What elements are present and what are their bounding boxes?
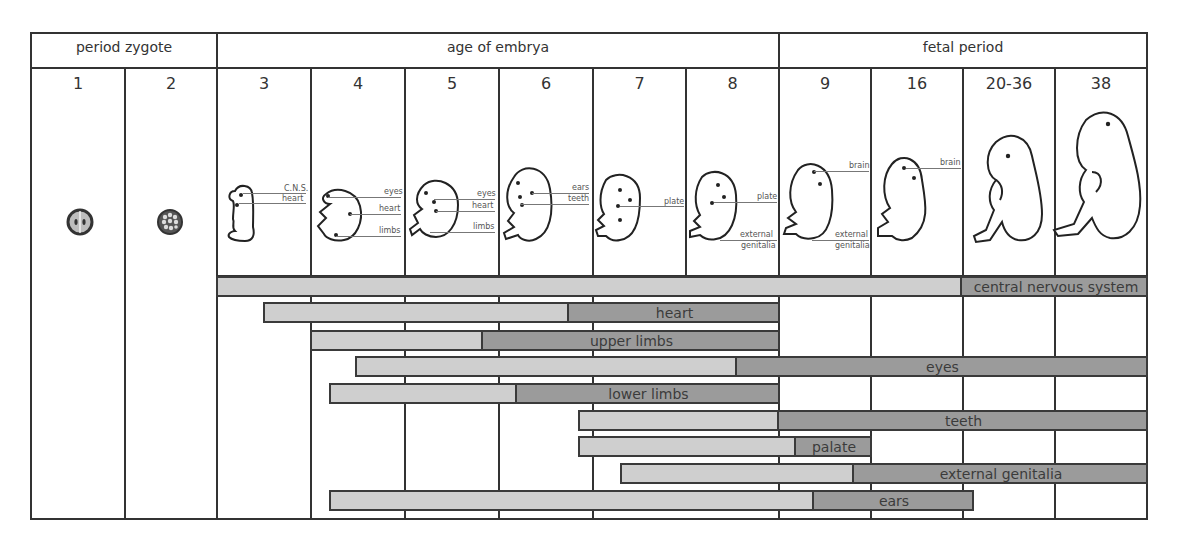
leader-line (239, 203, 306, 204)
week-label: 2 (126, 74, 216, 93)
fetus-week20-36-icon (966, 130, 1048, 248)
header-age-of-embryo: age of embrya (218, 39, 778, 55)
grid-line (962, 296, 964, 518)
annotation-eyes: eyes (384, 187, 403, 196)
leader-line (814, 171, 869, 172)
bar-label: ears (815, 492, 973, 509)
bar-label: central nervous system (964, 278, 1148, 295)
bar-upper-limbs: upper limbs (310, 330, 780, 351)
leader-line (434, 199, 495, 200)
annotation-limbs: limbs (379, 226, 400, 235)
embryo-week5-icon (408, 175, 462, 245)
annotation-plate: plate (757, 192, 777, 201)
leader-line (436, 211, 495, 212)
week-label: 20-36 (964, 74, 1054, 93)
annotation-ears: ears (572, 183, 589, 192)
bar-external-genitalia: external genitalia (620, 463, 1148, 484)
leader-line (620, 206, 684, 207)
group-sep-2 (778, 32, 780, 277)
bar-label: eyes (738, 358, 1147, 375)
fetus-week38-icon (1052, 106, 1144, 246)
header-divider-line (30, 67, 1148, 69)
leader-line (714, 202, 777, 203)
annotation-genitalia: genitalia (835, 241, 870, 250)
bar-label: upper limbs (484, 332, 779, 349)
annotation-heart: heart (379, 204, 400, 213)
annotation-heart: heart (472, 201, 493, 210)
bar-lower-limbs: lower limbs (329, 383, 780, 404)
fetus-week16-icon (874, 152, 930, 244)
annotation-eyes: eyes (477, 189, 496, 198)
week-label: 6 (500, 74, 592, 93)
bar-central-nervous-system: central nervous system (216, 276, 1148, 297)
week-label: 1 (32, 74, 124, 93)
annotation-external: external (835, 230, 868, 239)
bar-ears: ears (329, 490, 974, 511)
header-period-zygote: period zygote (32, 39, 216, 55)
bar-heart: heart (263, 302, 780, 323)
annotation-brain: brain (849, 161, 870, 170)
annotation-genitalia: genitalia (741, 241, 776, 250)
annotation-brain: brain (940, 158, 961, 167)
leader-line (430, 232, 495, 233)
col-sep (962, 67, 964, 277)
annotation-limbs: limbs (473, 222, 494, 231)
header-fetal-period: fetal period (780, 39, 1146, 55)
week-label: 3 (218, 74, 310, 93)
col-sep (404, 67, 406, 277)
frame-left-line (30, 32, 32, 520)
leader-line (520, 204, 589, 205)
bar-label: heart (570, 304, 779, 321)
week-label: 5 (406, 74, 498, 93)
bar-teeth: teeth (578, 410, 1148, 431)
col-sep (870, 67, 872, 277)
bar-eyes: eyes (355, 356, 1148, 377)
annotation-plate: plate (664, 197, 684, 206)
annotation-teeth: teeth (568, 194, 589, 203)
bar-label: teeth (780, 412, 1147, 429)
col-sep (685, 67, 687, 277)
frame-top-line (30, 32, 1148, 34)
zygote-two-cell-icon (66, 208, 94, 236)
week-label: 8 (687, 74, 778, 93)
morula-icon (156, 208, 184, 236)
week-label: 7 (594, 74, 685, 93)
leader-line (906, 168, 961, 169)
week-label: 38 (1056, 74, 1146, 93)
col-sep (124, 67, 126, 520)
bar-palate: palate (578, 436, 872, 457)
week-label: 4 (312, 74, 404, 93)
annotation-heart: heart (282, 194, 303, 203)
bar-label: lower limbs (518, 385, 779, 402)
leader-line (328, 197, 401, 198)
frame-bottom-line (30, 518, 1148, 520)
bar-label: external genitalia (855, 465, 1147, 482)
grid-line (870, 296, 872, 518)
embryo-week8-icon (688, 165, 740, 243)
week-label: 16 (872, 74, 962, 93)
leader-line (336, 236, 401, 237)
week-label: 9 (780, 74, 870, 93)
bar-label: palate (797, 438, 871, 455)
grid-line (1054, 296, 1056, 518)
leader-line (350, 214, 401, 215)
annotation-cns: C.N.S. (284, 184, 308, 193)
annotation-external: external (740, 230, 773, 239)
